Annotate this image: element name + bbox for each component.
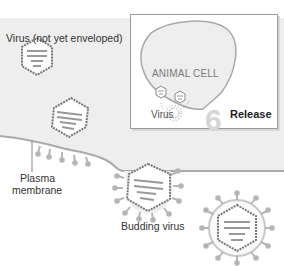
step-label-release: Release	[230, 108, 272, 120]
label-plasma-membrane-1: Plasma	[20, 172, 55, 184]
released-virus-icon	[200, 191, 274, 265]
animal-cell-shape	[141, 21, 236, 109]
animal-cell-label: ANIMAL CELL	[152, 68, 219, 79]
step-number: 6	[205, 103, 222, 137]
inset-virus-icon-2	[175, 91, 185, 103]
budding-virus-icon	[113, 164, 183, 222]
inset-virus-label: Virus	[151, 109, 174, 120]
label-plasma-membrane-2: membrane	[12, 184, 62, 196]
inset-virus-icon-1	[156, 86, 166, 98]
label-virus-not-enveloped: Virus (not yet enveloped)	[6, 32, 123, 44]
inset-panel: ANIMAL CELL Virus 6 Release	[130, 14, 278, 129]
label-budding-virus: Budding virus	[121, 220, 185, 232]
